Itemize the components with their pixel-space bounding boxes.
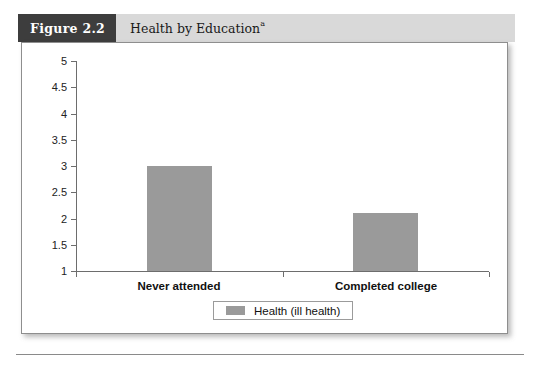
x-axis-category-label: Never attended (137, 280, 220, 292)
y-axis-tick-mark (71, 192, 76, 193)
y-axis-tick-label: 5 (33, 55, 67, 67)
x-axis-tick-mark (283, 272, 284, 277)
y-axis-tick-mark (71, 245, 76, 246)
figure-block: Figure 2.2 Health by Educationa 11.522.5… (18, 14, 515, 334)
x-axis-tick-mark (489, 272, 490, 277)
x-axis-tick-mark (76, 272, 77, 277)
figure-title: Health by Educationa (116, 14, 265, 42)
figure-header: Figure 2.2 Health by Educationa (18, 14, 515, 42)
figure-title-text: Health by Education (130, 21, 260, 36)
y-axis-tick-label: 4.5 (33, 81, 67, 93)
y-axis-tick-mark (71, 219, 76, 220)
y-axis-line (76, 61, 77, 271)
y-axis-tick-label: 1 (33, 265, 67, 277)
y-axis-tick-mark (71, 114, 76, 115)
legend-label: Health (ill health) (254, 305, 340, 317)
figure-number-badge: Figure 2.2 (18, 14, 116, 42)
y-axis-tick-label: 1.5 (33, 239, 67, 251)
y-axis-tick-mark (71, 140, 76, 141)
bar (353, 213, 418, 271)
plot-area: 11.522.533.544.55Never attendedCompleted… (22, 43, 509, 335)
bar (147, 166, 212, 271)
legend-color-swatch (226, 306, 245, 315)
x-axis-category-label: Completed college (335, 280, 437, 292)
y-axis-tick-label: 4 (33, 108, 67, 120)
y-axis-tick-label: 3.5 (33, 134, 67, 146)
chart-panel: 11.522.533.544.55Never attendedCompleted… (21, 42, 508, 334)
y-axis-tick-label: 2 (33, 213, 67, 225)
y-axis-tick-label: 2.5 (33, 186, 67, 198)
page-separator-rule (16, 354, 524, 355)
y-axis-tick-mark (71, 87, 76, 88)
chart-legend: Health (ill health) (213, 301, 353, 320)
y-axis-tick-mark (71, 166, 76, 167)
y-axis-tick-mark (71, 61, 76, 62)
y-axis-tick-label: 3 (33, 160, 67, 172)
figure-title-footnote-marker: a (260, 20, 265, 28)
